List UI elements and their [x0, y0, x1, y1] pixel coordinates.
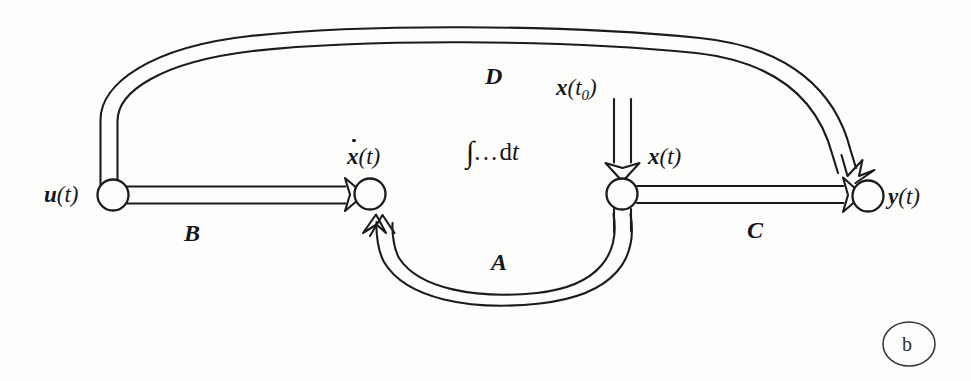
state-tap-stub: [614, 209, 631, 232]
matrix-b-label: B: [184, 221, 200, 245]
summing-node: [355, 179, 386, 210]
matrix-c-label: C: [747, 218, 763, 242]
signal-flow-diagram: [0, 0, 971, 381]
state-signal-label: x(t): [648, 145, 681, 168]
initial-condition-label: x(t0): [556, 76, 597, 103]
edge-b-path: [127, 178, 365, 211]
figure-canvas: u(t) x(t) x(t) y(t) x(t0) ∫...dt B C D A…: [0, 0, 971, 381]
output-node: [853, 181, 884, 212]
output-signal-label: y(t): [888, 185, 920, 208]
integrator-label: ∫...dt: [466, 137, 519, 167]
input-node: [98, 180, 129, 211]
input-signal-label: u(t): [44, 183, 79, 206]
matrix-d-label: D: [485, 64, 503, 88]
initial-condition-arrow: [606, 99, 640, 182]
state-derivative-label: x(t): [347, 145, 380, 168]
edge-d-path: [101, 27, 875, 193]
figure-caption: b: [902, 333, 912, 356]
matrix-a-label: A: [491, 250, 507, 274]
edge-c-path: [637, 178, 863, 213]
state-node: [607, 179, 638, 210]
